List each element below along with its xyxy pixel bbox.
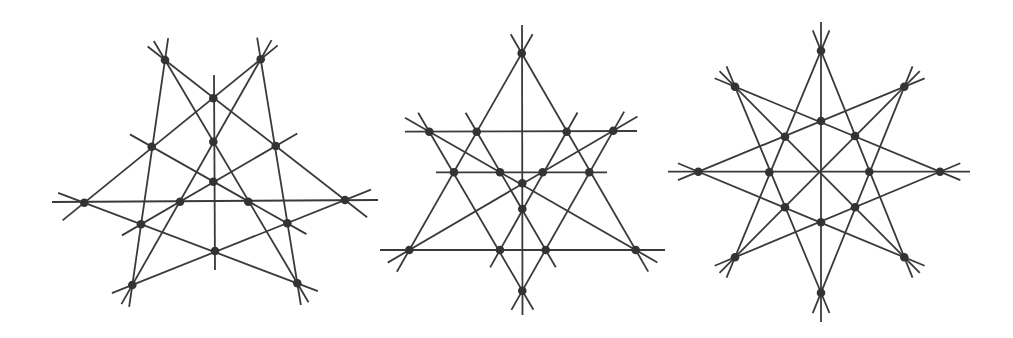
intersection-point-11 [781,203,790,212]
line-12 [214,75,215,270]
intersection-point-10 [518,179,527,188]
intersection-point-16 [518,286,527,295]
figure-1 [52,38,378,307]
line-4 [405,131,637,132]
line-7 [58,193,318,291]
intersection-point-10 [936,167,945,176]
intersection-point-14 [211,247,220,256]
intersection-point-1 [161,56,170,65]
intersection-point-2 [256,55,265,64]
intersection-point-11 [518,205,527,214]
line-5 [129,38,168,307]
intersection-point-9 [865,167,874,176]
intersection-point-14 [731,253,740,262]
intersection-point-13 [496,246,505,255]
intersection-point-1 [517,49,526,58]
intersection-point-5 [209,137,218,146]
line-6 [257,38,301,305]
intersection-point-3 [209,94,218,103]
intersection-point-7 [694,167,703,176]
intersection-point-3 [900,82,909,91]
intersection-point-4 [817,117,826,126]
intersection-point-13 [283,219,292,228]
intersection-point-5 [609,126,618,135]
line-1 [148,46,367,217]
intersection-point-7 [209,177,218,186]
diagram-canvas [0,0,1013,338]
intersection-point-15 [900,253,909,262]
intersection-point-9 [585,168,594,177]
intersection-point-15 [128,281,137,290]
intersection-point-12 [851,203,860,212]
intersection-point-4 [147,142,156,151]
intersection-point-1 [817,46,826,55]
line-12 [490,113,577,268]
figure-3 [668,22,970,322]
intersection-point-8 [765,168,774,177]
line-6 [522,25,523,315]
intersection-point-2 [425,127,434,136]
intersection-point-12 [405,246,414,255]
line-2 [511,34,649,271]
intersection-point-7 [496,168,505,177]
line-11 [466,113,556,268]
intersection-point-16 [293,279,302,288]
intersection-point-12 [137,220,146,229]
intersection-point-8 [80,198,89,207]
intersection-point-16 [817,288,826,297]
line-8 [112,190,371,294]
intersection-point-9 [176,197,185,206]
intersection-point-14 [541,246,550,255]
intersection-point-2 [731,82,740,91]
intersection-point-3 [472,127,481,136]
intersection-point-4 [562,127,571,136]
intersection-point-5 [781,132,790,141]
figure-2 [380,25,665,315]
intersection-point-11 [341,196,350,205]
intersection-point-6 [851,132,860,141]
intersection-point-10 [244,197,253,206]
intersection-point-6 [271,142,280,151]
intersection-point-8 [538,168,547,177]
intersection-point-15 [631,246,640,255]
intersection-point-13 [817,218,826,227]
intersection-point-6 [450,168,459,177]
